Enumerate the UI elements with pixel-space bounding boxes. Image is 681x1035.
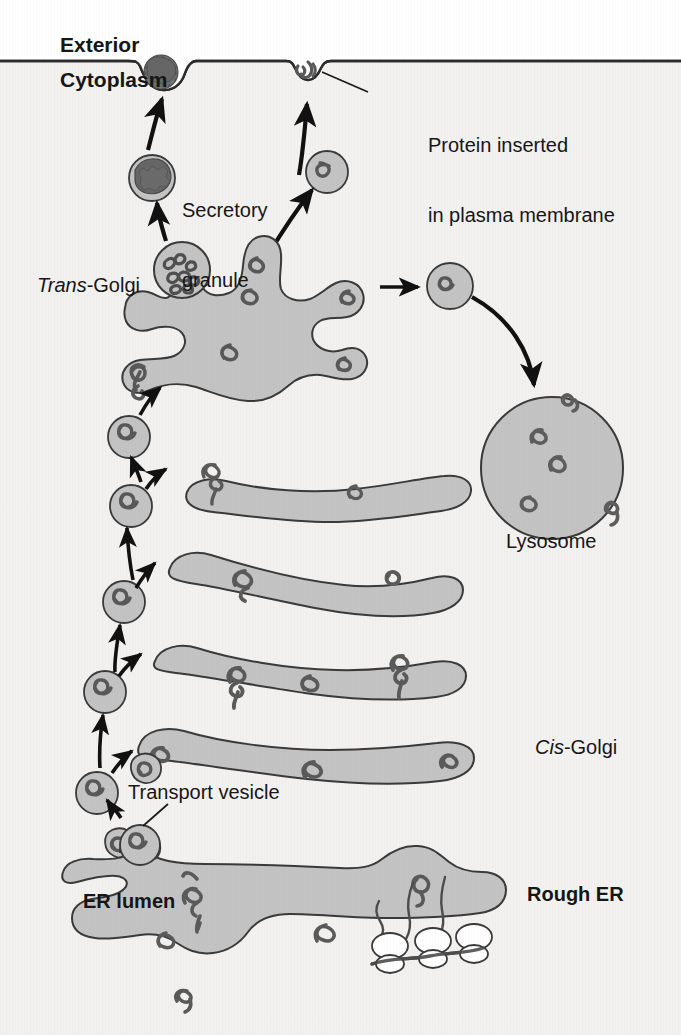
label-cis-golgi: Cis-Golgi bbox=[535, 736, 617, 759]
arrow-granule-to-membrane bbox=[148, 99, 162, 150]
lysosome bbox=[481, 395, 623, 539]
label-er-lumen: ER lumen bbox=[83, 890, 175, 913]
label-protein-inserted-line1: Protein inserted bbox=[428, 134, 615, 157]
transport-vesicle bbox=[84, 671, 126, 713]
vesicle-membrane-protein bbox=[306, 151, 348, 193]
ribosome-mrna-strand bbox=[372, 924, 492, 973]
label-trans-golgi-italic: Trans bbox=[37, 274, 87, 296]
ribosome bbox=[456, 924, 492, 963]
transport-vesicle bbox=[108, 416, 150, 458]
label-secretory-granule-line1: Secretory bbox=[182, 199, 268, 222]
ribosome bbox=[372, 933, 408, 973]
arrow-vesicle-to-lysosome bbox=[472, 297, 534, 385]
secretory-granule bbox=[129, 155, 175, 201]
label-lysosome: Lysosome bbox=[506, 530, 596, 553]
label-secretory-granule-line2: granule bbox=[182, 269, 268, 292]
transport-vesicle bbox=[103, 581, 145, 623]
label-trans-golgi: Trans-Golgi bbox=[37, 274, 140, 297]
label-cis-golgi-italic: Cis bbox=[535, 736, 564, 758]
label-protein-inserted-line2: in plasma membrane bbox=[428, 204, 615, 227]
golgi-cisterna-2 bbox=[169, 553, 463, 616]
label-cytoplasm: Cytoplasm bbox=[60, 68, 167, 92]
callout-line-membrane-protein bbox=[322, 72, 368, 92]
label-rough-er: Rough ER bbox=[527, 883, 624, 906]
transport-vesicle bbox=[131, 754, 161, 783]
arrow-tgn-to-granule bbox=[157, 203, 166, 241]
arrow-vesicle-to-membrane bbox=[299, 104, 307, 175]
ribosome bbox=[415, 928, 451, 968]
transport-vesicle bbox=[110, 485, 152, 527]
label-protein-inserted: Protein inserted in plasma membrane bbox=[428, 88, 615, 274]
label-exterior: Exterior bbox=[60, 33, 139, 57]
label-secretory-granule: Secretory granule bbox=[182, 153, 268, 339]
callout-line-er-vesicle bbox=[143, 804, 168, 826]
cis-golgi-cisterna bbox=[138, 729, 474, 783]
label-transport-vesicle: Transport vesicle bbox=[128, 781, 280, 804]
figure-canvas: Exterior Cytoplasm Protein inserted in p… bbox=[0, 0, 681, 1035]
golgi-cisterna-3 bbox=[154, 646, 466, 708]
golgi-cisterna-1 bbox=[186, 465, 471, 522]
label-cis-golgi-rest: -Golgi bbox=[564, 736, 617, 758]
label-trans-golgi-rest: -Golgi bbox=[87, 274, 140, 296]
rough-er bbox=[62, 825, 506, 1012]
